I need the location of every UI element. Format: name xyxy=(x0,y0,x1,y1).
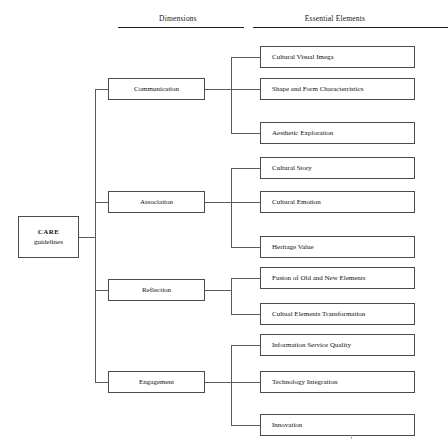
connector-trunk-to-communication xyxy=(95,89,109,90)
dimension-label: Engagement xyxy=(139,378,174,386)
element-node-cultural-emotion: Cultural Emotion xyxy=(260,191,415,213)
connector-engagement-to-element-1 xyxy=(231,345,260,346)
dimension-node-engagement: Engagement xyxy=(108,371,205,393)
connector-association-to-element-3 xyxy=(231,247,260,248)
dimension-node-communication: Communication xyxy=(108,78,205,100)
connector-communication-bus xyxy=(231,57,232,133)
connector-engagement-to-element-3 xyxy=(231,425,260,426)
element-label: Information Service Quality xyxy=(272,341,351,349)
connector-association-to-element-1 xyxy=(231,168,260,169)
element-node-shape-and-form-characterristics: Shape and Form Characterristics xyxy=(260,78,415,100)
element-label: Cultual Elements Transformation xyxy=(272,310,365,318)
element-label: Heritage Value xyxy=(272,243,314,251)
dimension-label: Association xyxy=(140,198,173,206)
element-label: Aesthetic Exploration xyxy=(272,129,333,137)
care-guidelines-diagram: Dimensions Essential Elements CARE guide… xyxy=(0,0,448,445)
element-label: Cultural Visual Imega xyxy=(272,53,334,61)
dimension-label: Communication xyxy=(134,85,179,93)
element-label: Cultural Story xyxy=(272,164,312,172)
connector-communication-to-element-2 xyxy=(231,89,260,90)
dimension-node-association: Association xyxy=(108,191,205,213)
dimension-label: Reflection xyxy=(142,286,171,294)
element-node-aesthetic-exploration: Aesthetic Exploration xyxy=(260,122,415,144)
element-node-cultual-elements-transformation: Cultual Elements Transformation xyxy=(260,303,415,325)
element-label: Innovation xyxy=(272,421,302,429)
element-label: Cultural Emotion xyxy=(272,198,321,206)
element-node-fusion-of-old-and-new-elements: Fusion of Old and New Elements xyxy=(260,267,415,289)
element-label: Technology Integration xyxy=(272,378,337,386)
connector-trunk-to-reflection xyxy=(95,290,109,291)
element-node-technology-integration: Technology Integration xyxy=(260,371,415,393)
root-node-care-guidelines: CARE guidelines xyxy=(18,216,79,258)
connector-association-bus xyxy=(231,168,232,247)
element-label: Shape and Form Characterristics xyxy=(272,85,364,93)
element-node-cultural-visual-imega: Cultural Visual Imega xyxy=(260,46,415,68)
column-header-essential-elements: Essential Elements xyxy=(255,14,415,23)
element-node-information-service-quality: Information Service Quality xyxy=(260,334,415,356)
element-node-innovation: Innovation xyxy=(260,414,415,436)
element-node-heritage-value: Heritage Value xyxy=(260,236,415,258)
connector-reflection-to-element-2 xyxy=(231,314,260,315)
element-node-cultural-story: Cultural Story xyxy=(260,157,415,179)
connector-communication-stem xyxy=(205,89,231,90)
connector-communication-to-element-1 xyxy=(231,57,260,58)
scan-artifact xyxy=(351,435,352,439)
connector-engagement-bus xyxy=(231,345,232,425)
dimension-node-reflection: Reflection xyxy=(108,279,205,301)
column-rule-essential-elements xyxy=(253,27,448,28)
connector-root-stub xyxy=(79,237,96,238)
root-label-line1: CARE xyxy=(38,228,59,236)
connector-engagement-stem xyxy=(205,382,231,383)
column-rule-dimensions xyxy=(118,27,244,28)
connector-reflection-to-element-1 xyxy=(231,278,260,279)
column-header-dimensions: Dimensions xyxy=(118,14,238,23)
connector-association-stem xyxy=(205,202,231,203)
connector-association-to-element-2 xyxy=(231,202,260,203)
connector-dimension-trunk xyxy=(95,89,96,382)
connector-reflection-bus xyxy=(231,278,232,314)
element-label: Fusion of Old and New Elements xyxy=(272,274,366,282)
root-label-line2: guidelines xyxy=(34,238,63,246)
connector-trunk-to-association xyxy=(95,202,109,203)
connector-communication-to-element-3 xyxy=(231,133,260,134)
connector-engagement-to-element-2 xyxy=(231,382,260,383)
connector-reflection-stem xyxy=(205,290,231,291)
connector-trunk-to-engagement xyxy=(95,382,109,383)
